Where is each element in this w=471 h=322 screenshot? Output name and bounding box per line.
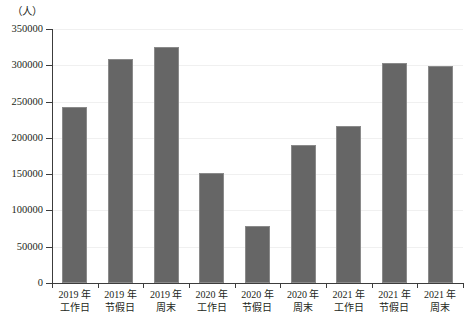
x-axis-category-label: 2019 年工作日 [52,289,98,314]
y-axis-unit-label: （人） [12,3,42,18]
x-axis-category-label-year: 2020 年 [189,289,235,302]
bar [199,173,224,283]
x-axis-category-label-daytype: 周末 [280,302,326,315]
y-axis-tick-label: 250000 [12,97,44,108]
x-axis-tick-mark [463,283,464,288]
x-axis-category-label-daytype: 周末 [143,302,189,315]
bar [428,66,453,283]
x-axis-category-label: 2020 年周末 [280,289,326,314]
x-axis-category-label-daytype: 节假日 [235,302,281,315]
x-axis-tick-mark [98,283,99,288]
x-axis-category-label: 2019 年周末 [143,289,189,314]
x-axis-category-label: 2019 年节假日 [98,289,144,314]
y-axis-tick-label: 200000 [12,133,44,144]
x-axis-category-label-year: 2021 年 [417,289,463,302]
bar [108,59,133,283]
y-axis-tick-label: 150000 [12,169,44,180]
x-axis-tick-mark [189,283,190,288]
x-axis-category-label-year: 2020 年 [280,289,326,302]
x-axis-tick-mark [372,283,373,288]
plot-area [52,29,463,283]
x-axis-line [52,283,463,284]
x-axis-category-label-year: 2019 年 [98,289,144,302]
x-axis-tick-mark [52,283,53,288]
x-axis-category-label-daytype: 工作日 [52,302,98,315]
bar [154,47,179,283]
x-axis-category-label: 2021 年节假日 [372,289,418,314]
x-axis-tick-mark [280,283,281,288]
x-axis-category-label-year: 2020 年 [235,289,281,302]
x-axis-category-label-year: 2019 年 [143,289,189,302]
bar [245,226,270,283]
y-axis-tick-label: 0 [38,278,43,289]
y-axis-tick-label: 300000 [12,60,44,71]
bar-chart: （人） 050000100000150000200000250000300000… [0,0,471,322]
x-axis-category-label-year: 2019 年 [52,289,98,302]
bar [382,63,407,283]
x-axis-tick-mark [235,283,236,288]
y-axis-tick-label: 50000 [17,242,43,253]
bar [291,145,316,283]
x-axis-tick-mark [326,283,327,288]
bar [62,107,87,283]
x-axis-category-label-daytype: 节假日 [372,302,418,315]
bar [336,126,361,283]
x-axis-tick-mark [143,283,144,288]
x-axis-tick-mark [417,283,418,288]
x-axis-category-label-year: 2021 年 [326,289,372,302]
x-axis-category-label-daytype: 工作日 [189,302,235,315]
x-axis-category-label: 2020 年工作日 [189,289,235,314]
x-axis-category-label: 2021 年工作日 [326,289,372,314]
x-axis-category-label-daytype: 节假日 [98,302,144,315]
x-axis-category-label: 2021 年周末 [417,289,463,314]
x-axis-category-label: 2020 年节假日 [235,289,281,314]
y-axis-tick-label: 350000 [12,24,44,35]
x-axis-category-label-daytype: 工作日 [326,302,372,315]
y-axis-tick-label: 100000 [12,205,44,216]
x-axis-category-label-daytype: 周末 [417,302,463,315]
x-axis-category-label-year: 2021 年 [372,289,418,302]
